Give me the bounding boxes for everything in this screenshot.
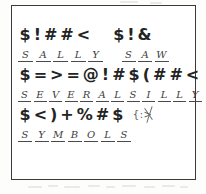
cipher-symbol: < — [75, 27, 91, 43]
answer-line: S E V E R A L S I L L Y — [18, 84, 195, 102]
answer-letter: Y — [192, 90, 199, 102]
answer-letter: S — [22, 130, 29, 142]
answer-slot[interactable]: E — [65, 90, 78, 103]
answer-slot[interactable]: O — [84, 130, 98, 143]
answer-line: S Y M B O L S — [18, 124, 195, 142]
answer-word[interactable]: S Y M B O L S — [18, 130, 134, 143]
answer-slot[interactable]: I — [142, 90, 155, 103]
answer-letter: Y — [92, 50, 99, 62]
answer-slot[interactable]: L — [53, 50, 68, 63]
answer-slot[interactable]: S — [122, 50, 136, 63]
cipher-symbol: < — [184, 67, 200, 83]
scanned-page: $ ! # # < $ ! & S A — [0, 0, 206, 194]
scan-artifact — [144, 186, 155, 188]
scan-artifact — [28, 186, 42, 188]
answer-letter: W — [156, 50, 166, 62]
answer-slot[interactable]: V — [49, 90, 62, 103]
answer-letter: O — [87, 130, 95, 142]
answer-word[interactable]: S A L L Y — [18, 50, 106, 63]
answer-letter: R — [83, 90, 91, 102]
answer-word[interactable]: S A W — [122, 50, 172, 63]
answer-slot[interactable]: R — [80, 90, 93, 103]
scan-artifact — [122, 185, 136, 187]
cipher-symbol: # — [59, 27, 75, 43]
answer-slot[interactable]: B — [68, 130, 82, 143]
answer-letter: L — [176, 90, 183, 102]
answer-letter: S — [130, 90, 137, 102]
answer-slot[interactable]: A — [96, 90, 109, 103]
answer-slot[interactable]: L — [158, 90, 171, 103]
answer-line: S A L L Y S A W — [18, 44, 195, 62]
cipher-symbol: $ — [18, 67, 32, 83]
cipher-symbol: > — [49, 67, 65, 83]
scan-artifact — [48, 185, 58, 187]
answer-slot[interactable]: Y — [88, 50, 103, 63]
cipher-symbol: ! — [126, 27, 136, 43]
cipher-symbol: & — [136, 27, 153, 43]
cipher-symbol: $ — [18, 107, 32, 123]
answer-slot[interactable]: S — [127, 90, 140, 103]
answer-slot[interactable]: E — [34, 90, 47, 103]
answer-letter: B — [71, 130, 78, 142]
cipher-symbol: ( — [141, 67, 151, 83]
cipher-symbol: # — [94, 107, 110, 123]
answer-letter: E — [67, 90, 74, 102]
answer-slot[interactable]: L — [101, 130, 115, 143]
cipher-line: $ < ) + % # $ {:> — [18, 103, 195, 123]
cipher-symbol: # — [42, 27, 58, 43]
cipher-symbol: < — [32, 107, 48, 123]
answer-letter: L — [75, 50, 82, 62]
cipher-symbol: = — [32, 67, 48, 83]
answer-letter: S — [22, 50, 29, 62]
answer-slot[interactable]: W — [155, 50, 169, 63]
cipher-symbol: $ — [112, 27, 126, 43]
answer-word[interactable]: S E V E R A L — [18, 90, 127, 103]
worksheet-frame: $ ! # # < $ ! & S A — [11, 5, 196, 180]
answer-slot[interactable]: S — [117, 130, 131, 143]
answer-slot[interactable]: L — [173, 90, 186, 103]
answer-letter: E — [36, 90, 43, 102]
scan-artifact — [64, 186, 80, 188]
answer-letter: I — [147, 90, 151, 102]
answer-letter: L — [114, 90, 121, 102]
answer-slot[interactable]: Y — [189, 90, 202, 103]
cipher-symbol: # — [111, 67, 127, 83]
cipher-word: $ ( # # < — [127, 67, 201, 83]
cipher-word: $ ! # # < — [18, 27, 92, 43]
answer-letter: A — [98, 90, 105, 102]
cipher-symbol: $ — [111, 107, 125, 123]
answer-letter: L — [57, 50, 64, 62]
cipher-symbol: + — [59, 107, 75, 123]
cipher-symbol: $ — [127, 67, 141, 83]
answer-slot[interactable]: M — [51, 130, 65, 143]
answer-slot[interactable]: S — [18, 50, 33, 63]
cipher-line: $ ! # # < $ ! & — [18, 23, 195, 43]
answer-letter: S — [125, 50, 132, 62]
answer-word[interactable]: S I L L Y — [127, 90, 205, 103]
answer-letter: A — [39, 50, 46, 62]
cipher-symbol: ! — [100, 67, 110, 83]
cipher-symbol: # — [152, 67, 168, 83]
answer-slot[interactable]: L — [111, 90, 124, 103]
answer-slot[interactable]: S — [18, 90, 31, 103]
cipher-symbol: @ — [81, 67, 100, 83]
answer-letter: S — [121, 130, 128, 142]
answer-slot[interactable]: Y — [35, 130, 49, 143]
scan-artifact — [106, 186, 115, 188]
puzzle-row: $ = > = @ ! # $ ( # # < — [18, 63, 195, 103]
answer-letter: M — [53, 130, 63, 142]
answer-slot[interactable]: S — [18, 130, 32, 143]
answer-slot[interactable]: A — [36, 50, 51, 63]
answer-letter: S — [21, 90, 28, 102]
scan-artifact — [162, 185, 175, 187]
answer-slot[interactable]: A — [138, 50, 152, 63]
cipher-symbol: $ — [18, 27, 32, 43]
cipher-line: $ = > = @ ! # $ ( # # < — [18, 63, 195, 83]
answer-letter: A — [141, 50, 148, 62]
answer-letter: V — [52, 90, 59, 102]
puzzle-row: $ ! # # < $ ! & S A — [18, 23, 195, 63]
cipher-symbol: # — [168, 67, 184, 83]
answer-slot[interactable]: L — [71, 50, 86, 63]
cipher-word: $ ! & — [112, 27, 153, 43]
puzzle-row: $ < ) + % # $ {:> — [18, 103, 195, 143]
